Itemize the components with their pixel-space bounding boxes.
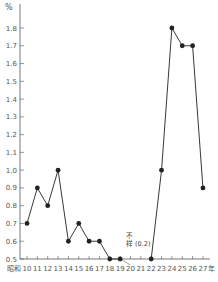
x-tick-label: 18 bbox=[105, 265, 114, 273]
y-tick-label: 1.1 bbox=[6, 149, 17, 157]
annotation-unknown-line2: 祥 (0.2) bbox=[126, 239, 150, 248]
y-tick-label: 0.7 bbox=[6, 220, 17, 228]
y-tick-label: 1.8 bbox=[6, 25, 17, 33]
y-tick-label: 0.5 bbox=[6, 256, 17, 264]
annotation-unknown-line1: 不 bbox=[126, 232, 133, 240]
y-tick-label: 1.2 bbox=[6, 131, 17, 139]
data-series bbox=[25, 26, 206, 265]
y-tick-label: 1.4 bbox=[6, 96, 18, 104]
data-point bbox=[66, 239, 71, 244]
x-tick-label: 26 bbox=[188, 265, 197, 273]
data-point bbox=[45, 203, 50, 208]
y-tick-label: 1.6 bbox=[6, 60, 18, 68]
x-tick-label: 12 bbox=[43, 265, 52, 273]
x-tick-label: 10 bbox=[23, 265, 32, 273]
x-tick-label: 23 bbox=[157, 265, 166, 273]
y-tick-label: 1.5 bbox=[6, 78, 17, 86]
y-axis: 0.50.60.70.80.91.01.11.21.31.41.51.61.71… bbox=[6, 4, 24, 264]
data-point bbox=[201, 186, 206, 191]
y-tick-label: 1.0 bbox=[6, 167, 17, 175]
data-point bbox=[159, 168, 164, 173]
data-point bbox=[97, 239, 102, 244]
y-tick-label: 1.3 bbox=[6, 113, 17, 121]
annotations: 不 祥 (0.2) bbox=[126, 232, 150, 248]
data-point bbox=[118, 257, 123, 262]
data-point bbox=[56, 168, 61, 173]
x-tick-label: 14 bbox=[64, 265, 73, 273]
x-tick-label: 22 bbox=[147, 265, 156, 273]
x-tick-label: 17 bbox=[95, 265, 104, 273]
y-tick-label: 0.9 bbox=[6, 184, 17, 192]
x-tick-label: 21 bbox=[136, 265, 145, 273]
data-point bbox=[190, 43, 195, 48]
data-point bbox=[35, 186, 40, 191]
x-tick-label: 11 bbox=[33, 265, 42, 273]
y-axis-unit: % bbox=[5, 3, 13, 12]
data-point bbox=[76, 221, 81, 226]
x-tick-label: 24 bbox=[167, 265, 176, 273]
x-tick-label: 16 bbox=[85, 265, 94, 273]
series-line bbox=[27, 170, 120, 259]
data-point bbox=[180, 43, 185, 48]
x-tick-label: 20 bbox=[126, 265, 135, 273]
x-tick-label: 25 bbox=[178, 265, 187, 273]
y-tick-label: 0.8 bbox=[6, 202, 17, 210]
x-tick-label: 15 bbox=[74, 265, 83, 273]
x-tick-label: 27 bbox=[198, 265, 207, 273]
y-tick-label: 0.6 bbox=[6, 238, 18, 246]
data-point bbox=[25, 221, 30, 226]
x-tick-label: 13 bbox=[54, 265, 63, 273]
x-tick-label: 19 bbox=[116, 265, 125, 273]
data-point bbox=[170, 26, 175, 31]
data-point bbox=[87, 239, 92, 244]
data-point bbox=[149, 257, 154, 262]
y-tick-label: 1.7 bbox=[6, 42, 17, 50]
data-point bbox=[107, 257, 112, 262]
x-axis-unit-label: 年 bbox=[208, 264, 215, 273]
line-chart: 0.50.60.70.80.91.01.11.21.31.41.51.61.71… bbox=[0, 0, 218, 282]
x-axis-era-label: 昭和 bbox=[7, 264, 21, 273]
series-line bbox=[151, 28, 203, 259]
